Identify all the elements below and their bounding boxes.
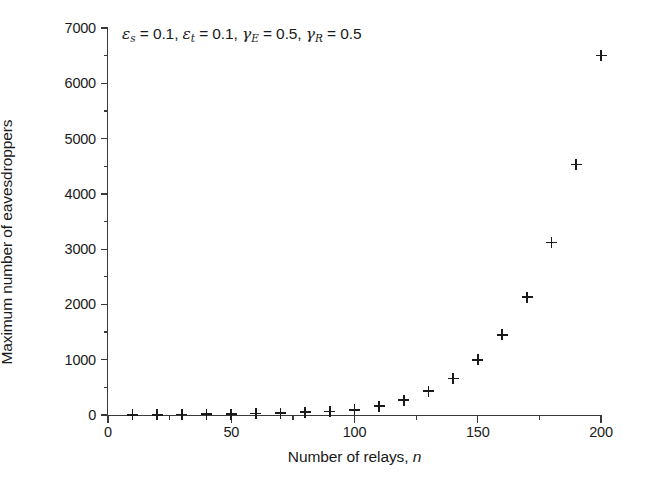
x-tick-minor [292, 416, 293, 420]
data-point-marker [398, 395, 409, 406]
x-tick-label: 200 [589, 424, 613, 440]
y-tick-major [101, 193, 108, 194]
y-tick-major [101, 83, 108, 84]
x-axis-title: Number of relays, n [108, 448, 601, 466]
x-tick-major [600, 416, 601, 423]
data-point-marker [226, 409, 237, 420]
y-tick-major [101, 359, 108, 360]
y-tick-label: 5000 [65, 131, 96, 147]
data-point-marker [497, 329, 508, 340]
y-tick-label: 2000 [65, 296, 96, 312]
x-tick-minor [539, 416, 540, 420]
data-point-marker [546, 237, 557, 248]
x-tick-minor [416, 416, 417, 420]
y-tick-label: 1000 [65, 352, 96, 368]
data-point-marker [250, 408, 261, 419]
y-tick-major [101, 304, 108, 305]
y-tick-label: 6000 [65, 75, 96, 91]
data-point-marker [448, 373, 459, 384]
y-tick-major [101, 138, 108, 139]
x-tick-major [107, 416, 108, 423]
plot-area [108, 28, 601, 415]
data-point-marker [324, 406, 335, 417]
data-point-marker [300, 407, 311, 418]
y-axis-ticks: 01000200030004000500060007000 [0, 0, 108, 416]
x-tick-major [477, 416, 478, 423]
x-tick-label: 150 [466, 424, 490, 440]
y-tick-major [101, 249, 108, 250]
y-tick-major [101, 27, 108, 28]
data-point-marker [176, 409, 187, 420]
x-tick-label: 100 [343, 424, 367, 440]
data-point-marker [201, 409, 212, 420]
data-point-marker [472, 354, 483, 365]
x-tick-major [354, 416, 355, 423]
x-axis-title-variable: n [413, 448, 422, 465]
data-point-marker [571, 159, 582, 170]
x-tick-minor [169, 416, 170, 420]
data-point-marker [374, 401, 385, 412]
data-point-marker [127, 409, 138, 420]
y-tick-label: 4000 [65, 186, 96, 202]
chart-figure: Maximum number of eavesdroppers 01000200… [0, 0, 646, 484]
x-tick-label: 50 [223, 424, 239, 440]
x-tick-label: 0 [104, 424, 112, 440]
data-point-marker [152, 409, 163, 420]
data-point-marker [596, 50, 607, 61]
y-tick-label: 3000 [65, 241, 96, 257]
x-axis-ticks [0, 416, 646, 430]
data-point-marker [349, 404, 360, 415]
data-point-marker [423, 386, 434, 397]
y-tick-label: 7000 [65, 20, 96, 36]
data-point-marker [275, 408, 286, 419]
x-axis-title-text: Number of relays, [288, 448, 409, 465]
data-point-marker [522, 292, 533, 303]
